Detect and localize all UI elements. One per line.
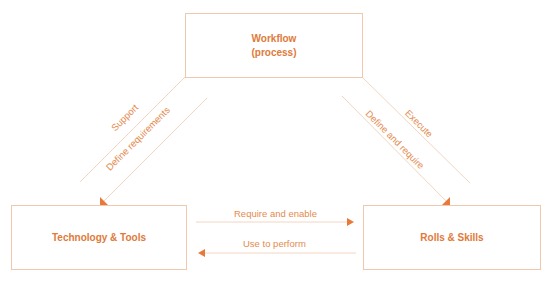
node-workflow-subtitle: (process) (251, 46, 296, 60)
edge-label-require-and-enable: Require and enable (234, 208, 317, 219)
node-technology-label: Technology & Tools (52, 231, 146, 245)
arrow-head-icon (347, 218, 354, 226)
node-technology-tools: Technology & Tools (11, 205, 187, 270)
arrow-head-icon (198, 249, 205, 257)
node-roles-skills: Rolls & Skills (363, 205, 541, 270)
node-roles-label: Rolls & Skills (420, 231, 483, 245)
node-workflow-title: Workflow (251, 32, 296, 46)
node-workflow: Workflow (process) (185, 13, 363, 78)
edge-label-use-to-perform: Use to perform (243, 238, 306, 249)
